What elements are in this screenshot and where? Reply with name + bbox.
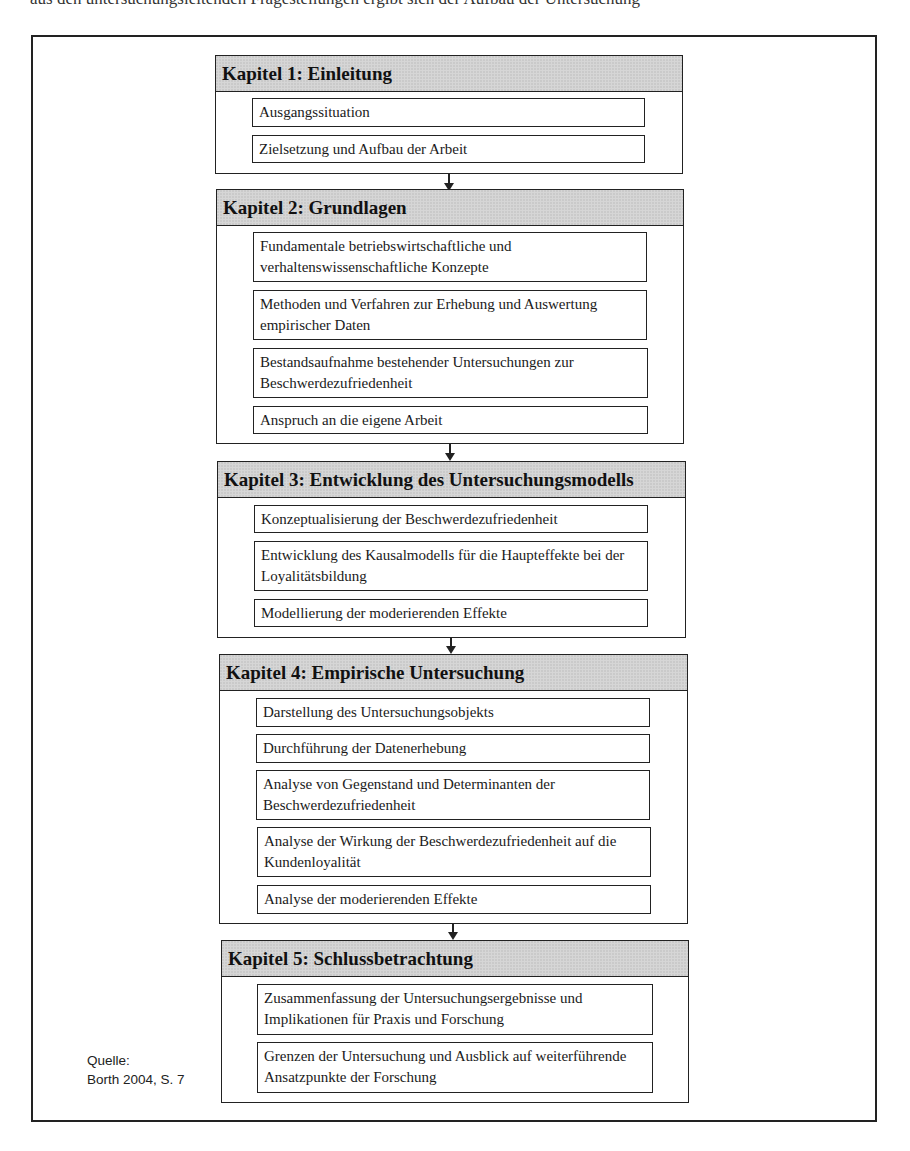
chapter-3-item-3: Modellierung der moderierenden Effekte bbox=[254, 599, 648, 627]
source-note: Quelle: Borth 2004, S. 7 bbox=[87, 1051, 185, 1089]
source-citation: Borth 2004, S. 7 bbox=[87, 1070, 185, 1089]
chapter-4-item-1: Darstellung des Untersuchungsobjekts bbox=[256, 698, 650, 727]
chapter-1-item-1: Ausgangssituation bbox=[252, 98, 645, 127]
chapter-4-item-4: Analyse der Wirkung der Beschwerdezufrie… bbox=[257, 827, 651, 877]
chapter-2-item-1: Fundamentale betriebswirtschaftliche und… bbox=[253, 232, 647, 282]
chapter-2-item-4: Anspruch an die eigene Arbeit bbox=[253, 406, 648, 434]
chapter-2-item-3: Bestandsaufnahme bestehender Untersuchun… bbox=[253, 348, 648, 398]
chapter-2-item-2: Methoden und Verfahren zur Erhebung und … bbox=[253, 290, 647, 340]
chapter-5-box: Kapitel 5: Schlussbetrachtung Zusammenfa… bbox=[221, 940, 689, 1103]
source-label: Quelle: bbox=[87, 1051, 185, 1070]
chapter-3-box: Kapitel 3: Entwicklung des Untersuchungs… bbox=[217, 461, 686, 638]
chapter-4-item-2: Durchführung der Datenerhebung bbox=[256, 734, 650, 763]
chapter-5-item-1: Zusammenfassung der Untersuchungsergebni… bbox=[257, 984, 653, 1035]
chapter-5-item-2: Grenzen der Untersuchung und Ausblick au… bbox=[257, 1042, 653, 1093]
chapter-4-item-3: Analyse von Gegenstand und Determinanten… bbox=[256, 770, 650, 820]
chapter-3-item-2: Entwicklung des Kausalmodells für die Ha… bbox=[254, 541, 648, 591]
chapter-4-box: Kapitel 4: Empirische Untersuchung Darst… bbox=[219, 654, 688, 924]
chapter-3-item-1: Konzeptualisierung der Beschwerdezufried… bbox=[254, 505, 648, 533]
chapter-4-title: Kapitel 4: Empirische Untersuchung bbox=[220, 655, 687, 691]
chapter-2-box: Kapitel 2: Grundlagen Fundamentale betri… bbox=[216, 189, 684, 444]
arrow-3-to-4 bbox=[445, 638, 457, 654]
chapter-1-item-2: Zielsetzung und Aufbau der Arbeit bbox=[252, 135, 645, 163]
arrow-4-to-5 bbox=[447, 924, 459, 940]
arrow-2-to-3 bbox=[444, 444, 456, 461]
chapter-3-title: Kapitel 3: Entwicklung des Untersuchungs… bbox=[218, 462, 685, 498]
chapter-1-box: Kapitel 1: Einleitung Ausgangssituation … bbox=[215, 55, 683, 174]
chapter-2-title: Kapitel 2: Grundlagen bbox=[217, 190, 683, 226]
chapter-1-title: Kapitel 1: Einleitung bbox=[216, 56, 682, 92]
cut-off-top-text: aus den untersuchungsleitenden Fragestel… bbox=[30, 0, 890, 9]
chapter-5-title: Kapitel 5: Schlussbetrachtung bbox=[222, 941, 688, 977]
chapter-4-item-5: Analyse der moderierenden Effekte bbox=[257, 885, 651, 914]
